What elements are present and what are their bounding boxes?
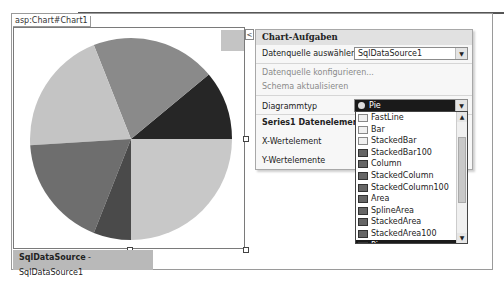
dropdown-item[interactable]: StackedArea100 bbox=[356, 228, 467, 240]
chart-type-dropdown-list[interactable]: FastLineBarStackedBarStackedBar100Column… bbox=[355, 111, 468, 244]
divider bbox=[256, 95, 472, 96]
dropdown-item-label: Pie bbox=[371, 241, 383, 244]
dropdown-item-label: Bar bbox=[371, 125, 385, 134]
control-tag[interactable]: asp:Chart#Chart1 bbox=[13, 16, 91, 27]
chart-type-icon bbox=[358, 230, 368, 238]
dropdown-item-label: Column bbox=[371, 159, 402, 168]
chart-type-icon bbox=[358, 242, 368, 244]
dropdown-item[interactable]: SplineArea bbox=[356, 205, 467, 217]
dropdown-item[interactable]: StackedBar bbox=[356, 135, 467, 147]
dropdown-scrollbar[interactable]: ▲ ▼ bbox=[456, 112, 467, 243]
dropdown-item[interactable]: Area bbox=[356, 193, 467, 205]
chart-type-icon bbox=[358, 149, 368, 157]
dropdown-item[interactable]: StackedColumn bbox=[356, 170, 467, 182]
chart-type-icon bbox=[358, 126, 368, 134]
chart-type-icon bbox=[358, 207, 368, 215]
scroll-thumb[interactable] bbox=[458, 137, 466, 203]
chart-type-icon bbox=[358, 172, 368, 180]
y-members-label: Y-Wertelemente bbox=[262, 156, 325, 165]
pie-icon bbox=[358, 102, 365, 109]
dropdown-item-label: StackedColumn100 bbox=[371, 183, 449, 192]
datasource-select[interactable]: SqlDataSource1 ▼ bbox=[354, 47, 468, 60]
chart-type-icon bbox=[358, 184, 368, 192]
smart-tag-button[interactable]: < bbox=[245, 29, 254, 40]
datasource-label: Datenquelle auswählen: bbox=[262, 49, 359, 58]
scroll-down-icon[interactable]: ▼ bbox=[457, 233, 467, 243]
series-header: Series1 Datenelemente bbox=[262, 118, 368, 127]
chart-type-icon bbox=[358, 114, 368, 122]
dropdown-item[interactable]: Column bbox=[356, 158, 467, 170]
datasource-select-value: SqlDataSource1 bbox=[358, 49, 422, 58]
pie-chart bbox=[29, 37, 233, 241]
dropdown-item[interactable]: Pie bbox=[356, 240, 467, 244]
dropdown-item[interactable]: StackedColumn100 bbox=[356, 182, 467, 194]
datasource-control[interactable]: SqlDataSource - SqlDataSource1 bbox=[13, 250, 153, 270]
chart-type-icon bbox=[358, 218, 368, 226]
dropdown-item-label: Area bbox=[371, 194, 389, 203]
x-member-label: X-Wertelement bbox=[262, 137, 321, 146]
refresh-schema-link[interactable]: Schema aktualisieren bbox=[262, 82, 348, 91]
dropdown-item-label: StackedArea bbox=[371, 217, 421, 226]
chevron-down-icon: ▼ bbox=[455, 100, 467, 111]
datasource-id: SqlDataSource1 bbox=[19, 268, 83, 277]
chart-type-value: Pie bbox=[369, 101, 381, 110]
chevron-down-icon: ▼ bbox=[455, 48, 467, 59]
dropdown-item-label: StackedBar bbox=[371, 136, 417, 145]
dropdown-item-label: FastLine bbox=[371, 113, 404, 122]
dropdown-item[interactable]: StackedBar100 bbox=[356, 147, 467, 159]
dropdown-items: FastLineBarStackedBarStackedBar100Column… bbox=[356, 112, 467, 244]
dropdown-item-label: StackedArea100 bbox=[371, 229, 437, 238]
divider bbox=[256, 63, 472, 64]
scroll-up-icon[interactable]: ▲ bbox=[457, 112, 467, 122]
dropdown-item[interactable]: StackedArea bbox=[356, 216, 467, 228]
pie-slice bbox=[131, 139, 232, 240]
configure-datasource-link[interactable]: Datenquelle konfigurieren... bbox=[262, 68, 374, 77]
dropdown-item-label: StackedColumn bbox=[371, 171, 434, 180]
dropdown-item[interactable]: FastLine bbox=[356, 112, 467, 124]
datasource-separator: - bbox=[86, 253, 91, 262]
resize-handle-corner[interactable] bbox=[243, 247, 249, 253]
dropdown-item-label: SplineArea bbox=[371, 206, 414, 215]
panel-title: Chart-Aufgaben bbox=[256, 30, 472, 45]
chart-type-icon bbox=[358, 195, 368, 203]
resize-handle-right[interactable] bbox=[243, 136, 249, 142]
dropdown-item-label: StackedBar100 bbox=[371, 148, 432, 157]
chart-type-label: Diagrammtyp bbox=[262, 102, 317, 111]
dropdown-item[interactable]: Bar bbox=[356, 124, 467, 136]
chart-type-icon bbox=[358, 137, 368, 145]
datasource-type: SqlDataSource bbox=[19, 253, 86, 262]
chart-type-icon bbox=[358, 160, 368, 168]
